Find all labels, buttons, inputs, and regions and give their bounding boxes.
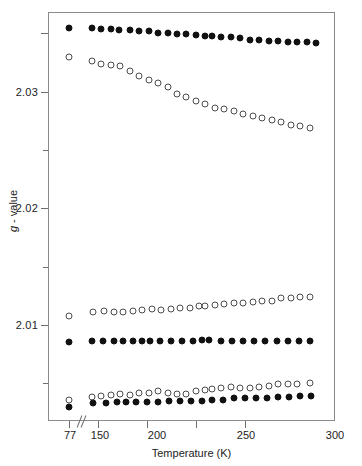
data-point <box>136 389 143 396</box>
data-point <box>240 111 247 118</box>
data-point <box>268 116 275 123</box>
data-point <box>262 338 269 345</box>
data-point <box>286 394 293 401</box>
data-point <box>284 338 291 345</box>
data-point <box>284 381 291 388</box>
data-point <box>249 113 256 120</box>
x-axis-title: Temperature (K) <box>48 447 335 459</box>
data-point <box>158 306 165 313</box>
data-point <box>167 338 174 345</box>
data-point <box>199 397 206 404</box>
x-tick-250 <box>196 421 197 428</box>
data-point <box>129 308 136 315</box>
x-tick-label-200: 200 <box>148 429 166 441</box>
data-point <box>208 396 215 403</box>
data-point <box>99 338 106 345</box>
data-point <box>249 298 256 305</box>
data-point <box>308 393 315 400</box>
data-point <box>297 393 304 400</box>
data-point <box>241 395 248 402</box>
data-point <box>102 400 109 407</box>
data-point <box>107 62 114 69</box>
data-point <box>205 337 212 344</box>
data-point <box>208 33 215 40</box>
data-point <box>313 40 320 47</box>
data-point <box>143 398 150 405</box>
data-point <box>221 301 228 308</box>
data-point <box>139 338 146 345</box>
data-point <box>66 312 73 319</box>
data-point <box>101 308 108 315</box>
data-point <box>230 299 237 306</box>
data-point <box>275 394 282 401</box>
data-point <box>306 338 313 345</box>
data-point <box>66 396 73 403</box>
data-point <box>253 395 260 402</box>
plot-area-frame <box>48 12 335 421</box>
data-point <box>192 388 199 395</box>
data-point <box>208 386 215 393</box>
y-tick-minor-2025 <box>43 150 48 151</box>
data-point <box>265 37 272 44</box>
data-point <box>66 54 73 61</box>
data-point <box>174 30 181 37</box>
data-point <box>251 338 258 345</box>
data-point <box>178 338 185 345</box>
data-point <box>183 30 190 37</box>
data-point <box>230 395 237 402</box>
data-point <box>90 309 97 316</box>
y-tick-major-202 <box>41 208 48 209</box>
data-point <box>98 393 105 400</box>
y-tick-minor-2035 <box>41 33 48 34</box>
data-point <box>240 338 247 345</box>
data-point <box>211 105 218 112</box>
data-point <box>275 37 282 44</box>
data-point <box>202 303 209 310</box>
axis-break-icon <box>76 415 88 429</box>
data-point <box>66 339 73 346</box>
data-point <box>303 38 310 45</box>
data-point <box>66 24 73 31</box>
data-point <box>147 338 154 345</box>
data-point <box>275 381 282 388</box>
data-point <box>219 396 226 403</box>
data-point <box>183 93 190 100</box>
data-point <box>120 309 127 316</box>
y-tick-major-201 <box>41 325 48 326</box>
x-tick-label-250: 250 <box>237 429 255 441</box>
data-point <box>230 107 237 114</box>
data-point <box>295 338 302 345</box>
data-point <box>294 38 301 45</box>
data-point <box>189 338 196 345</box>
data-point <box>148 305 155 312</box>
data-point <box>123 398 130 405</box>
data-point <box>88 24 95 31</box>
data-point <box>107 26 114 33</box>
data-point <box>110 309 117 316</box>
x-tick-150 <box>98 421 99 428</box>
data-point <box>306 294 313 301</box>
data-point <box>156 338 163 345</box>
data-point <box>98 61 105 68</box>
data-point <box>287 121 294 128</box>
data-point <box>126 391 133 398</box>
data-point <box>110 338 117 345</box>
data-point <box>237 384 244 391</box>
data-point <box>192 98 199 105</box>
data-point <box>278 119 285 126</box>
data-point <box>88 57 95 64</box>
data-point <box>278 295 285 302</box>
y-tick-label-202: 2.02 <box>16 202 38 214</box>
data-point <box>113 398 120 405</box>
data-point <box>177 397 184 404</box>
data-point <box>306 380 313 387</box>
data-point <box>229 338 236 345</box>
data-point <box>167 305 174 312</box>
data-point <box>174 91 181 98</box>
data-point <box>218 338 225 345</box>
data-point <box>164 389 171 396</box>
data-point <box>211 302 218 309</box>
data-point <box>145 389 152 396</box>
data-point <box>88 338 95 345</box>
data-point <box>155 388 162 395</box>
